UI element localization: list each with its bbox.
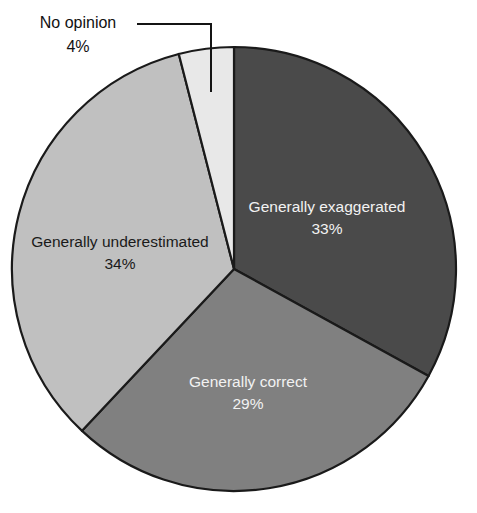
pie-chart-figure: Generally exaggerated33%Generally correc… (0, 0, 477, 513)
slice-label-generally-correct: Generally correct (189, 373, 308, 390)
pie-slices-group (12, 47, 456, 491)
slice-label-generally-exaggerated: Generally exaggerated (249, 198, 406, 215)
slice-value-generally-exaggerated: 33% (311, 220, 342, 237)
slice-label-generally-underestimated: Generally underestimated (31, 233, 209, 250)
slice-value-generally-underestimated: 34% (104, 255, 135, 272)
slice-value-generally-correct: 29% (232, 395, 263, 412)
no-opinion-callout-value: 4% (66, 38, 89, 55)
pie-chart-svg: Generally exaggerated33%Generally correc… (0, 0, 477, 513)
no-opinion-callout-label: No opinion (40, 14, 117, 31)
